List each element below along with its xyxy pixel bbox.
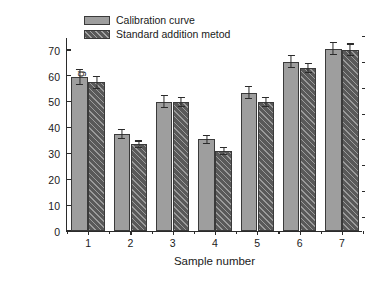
error-bar-cap [262, 97, 269, 98]
error-bar-cap [93, 76, 100, 77]
y-axis-tick-mark [67, 127, 71, 128]
bar [300, 68, 317, 231]
x-axis-tick-label: 1 [85, 237, 91, 249]
bar-group [114, 38, 148, 231]
chart-legend: Calibration curve Standard addition meto… [84, 14, 230, 40]
error-bar-cap [203, 143, 210, 144]
bar [114, 134, 131, 231]
error-bar [206, 135, 207, 144]
error-bar [248, 86, 249, 99]
bars-layer [67, 38, 362, 231]
bar-chart: Calibration curve Standard addition meto… [0, 0, 378, 288]
bar [283, 62, 300, 231]
x-axis-tick-mark [130, 231, 131, 235]
error-bar [291, 55, 292, 68]
error-bar-cap [76, 84, 83, 85]
plot-area: 010203040506070 1234567 Sample number [66, 38, 362, 232]
y-axis-tick-label: 10 [48, 200, 67, 211]
x-axis-minor-tick [152, 231, 153, 234]
error-bar-cap [288, 55, 295, 56]
y-axis-minor-tick [362, 139, 365, 140]
y-axis-tick-mark [67, 101, 71, 102]
error-bar-cap [161, 95, 168, 96]
y-axis-minor-tick [362, 62, 365, 63]
error-bar-cap [135, 140, 142, 141]
x-axis-tick-mark [300, 231, 301, 235]
x-axis-tick-mark [342, 231, 343, 235]
x-axis-tick-label: 4 [212, 237, 218, 249]
x-axis-tick-mark [257, 231, 258, 235]
y-axis-tick-label: 50 [48, 97, 67, 108]
bar-group [71, 38, 105, 231]
error-bar [223, 147, 224, 155]
error-bar-cap [245, 98, 252, 99]
bar-group [156, 38, 190, 231]
y-axis-minor-tick [362, 36, 365, 37]
error-bar-cap [93, 88, 100, 89]
bar [198, 139, 215, 231]
x-axis-minor-tick [278, 231, 279, 234]
y-axis-tick-label: 30 [48, 149, 67, 160]
error-bar-cap [220, 154, 227, 155]
x-axis-minor-tick [321, 231, 322, 234]
x-axis-minor-tick [109, 231, 110, 234]
error-bar [333, 42, 334, 55]
error-bar-cap [330, 54, 337, 55]
y-axis-tick-mark [67, 49, 71, 50]
error-bar-cap [288, 67, 295, 68]
legend-swatch-icon-calibration-curve [84, 16, 110, 25]
error-bar [164, 95, 165, 108]
error-bar-cap [118, 129, 125, 130]
error-bar [181, 97, 182, 107]
legend-item-calibration-curve: Calibration curve [84, 14, 230, 26]
legend-label-calibration-curve: Calibration curve [116, 14, 195, 26]
error-bar-cap [330, 42, 337, 43]
bar [173, 102, 190, 231]
y-axis-tick-mark [67, 179, 71, 180]
bar-group [241, 38, 275, 231]
bar [342, 50, 359, 231]
error-bar-cap [305, 63, 312, 64]
error-bar [121, 129, 122, 138]
bar [156, 102, 173, 231]
x-axis-tick-label: 7 [339, 237, 345, 249]
x-axis-title: Sample number [67, 255, 362, 267]
error-bar [308, 63, 309, 73]
x-axis-minor-tick [236, 231, 237, 234]
bar-group [325, 38, 359, 231]
bar [88, 82, 105, 231]
bar [215, 151, 232, 231]
error-bar-cap [220, 147, 227, 148]
bar [325, 49, 342, 231]
bar-group [283, 38, 317, 231]
error-bar-cap [178, 97, 185, 98]
x-axis-minor-tick [67, 231, 68, 234]
y-axis-minor-tick [362, 165, 365, 166]
bar [258, 102, 275, 231]
bar [241, 93, 258, 231]
bar [131, 144, 148, 231]
bar [71, 77, 88, 231]
x-axis-tick-mark [215, 231, 216, 235]
error-bar-cap [76, 69, 83, 70]
error-bar-cap [347, 43, 354, 44]
x-axis-minor-tick [194, 231, 195, 234]
x-axis-tick-label: 3 [170, 237, 176, 249]
error-bar [79, 69, 80, 85]
y-axis-tick-mark [67, 153, 71, 154]
error-bar-cap [347, 55, 354, 56]
y-axis-tick-label: 70 [48, 45, 67, 56]
x-axis-minor-tick [363, 231, 364, 234]
bar-group [198, 38, 232, 231]
error-bar-cap [161, 107, 168, 108]
y-axis-minor-tick [362, 191, 365, 192]
x-axis-tick-label: 2 [128, 237, 134, 249]
x-axis-tick-label: 6 [297, 237, 303, 249]
y-axis-tick-mark [67, 75, 71, 76]
y-axis-tick-label: 20 [48, 175, 67, 186]
error-bar [350, 43, 351, 56]
error-bar-cap [118, 138, 125, 139]
x-axis-tick-mark [173, 231, 174, 235]
error-bar-cap [135, 147, 142, 148]
error-bar-cap [203, 135, 210, 136]
